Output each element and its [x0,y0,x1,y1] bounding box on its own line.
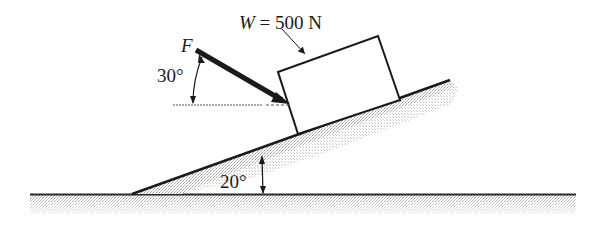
diagram-canvas [0,0,593,227]
weight-value: = 500 N [260,12,322,33]
inclined-plane-diagram: W = 500 N F 30° 20° [0,0,593,227]
force-angle-label: 30° [157,66,184,85]
force-angle-dimension [190,54,205,104]
force-arrow [196,50,290,104]
incline-angle-label: 20° [220,172,247,191]
weight-symbol: W [239,12,255,33]
weight-label: W = 500 N [239,13,322,32]
force-label: F [181,36,193,55]
ground [30,194,576,214]
